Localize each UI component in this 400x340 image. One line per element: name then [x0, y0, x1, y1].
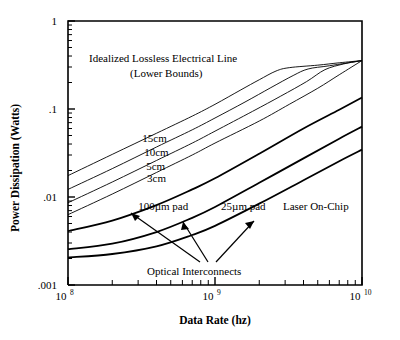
curve-label-10cm: 10cm — [144, 146, 169, 158]
curve-label-100um-pad: 100µm pad — [138, 200, 189, 212]
curve-5cm — [68, 61, 362, 203]
y-axis-tick-labels: 1.1.01.001 — [38, 15, 57, 291]
electrical-title-line1: Idealized Lossless Electrical Line — [89, 52, 237, 64]
y-tick-label: .01 — [43, 191, 57, 203]
x-axis-ticks — [68, 277, 362, 285]
data-curves — [68, 61, 362, 258]
x-tick-label: 109 — [203, 288, 222, 302]
curve-label-25um-pad: 25µm pad — [221, 200, 266, 212]
x-tick-exponent: 10 — [364, 288, 372, 297]
curve-label-15cm: 15cm — [142, 132, 167, 144]
y-tick-label: .001 — [38, 279, 57, 291]
x-tick-label: 1010 — [350, 288, 372, 302]
y-tick-label: 1 — [52, 15, 58, 27]
curve-10cm — [68, 61, 362, 190]
x-tick-exponent: 9 — [217, 288, 221, 297]
x-tick-exponent: 8 — [70, 288, 74, 297]
curve-label-laser-on-chip: Laser On-Chip — [283, 200, 349, 212]
optical-group-label: Optical Interconnects — [147, 265, 241, 277]
x-tick-mantissa: 10 — [203, 290, 215, 302]
electrical-title-line2: (Lower Bounds) — [130, 67, 203, 80]
power-dissipation-chart: 1.1.01.001 1081091010 15cm10cm5cm3cm100µ… — [0, 0, 400, 340]
x-tick-label: 108 — [56, 288, 75, 302]
y-axis-title: Power Dissipation (Watts) — [9, 104, 22, 232]
x-axis-tick-labels: 1081091010 — [56, 288, 372, 302]
x-tick-mantissa: 10 — [56, 290, 68, 302]
y-axis-ticks — [68, 21, 75, 285]
curve-label-3cm: 3cm — [147, 172, 166, 184]
curve-label-5cm: 5cm — [146, 160, 165, 172]
x-axis-title: Data Rate (hz) — [179, 314, 251, 327]
curve-25um-pad — [68, 127, 362, 250]
x-tick-mantissa: 10 — [350, 290, 362, 302]
chart-svg: 1.1.01.001 1081091010 15cm10cm5cm3cm100µ… — [0, 0, 400, 340]
y-tick-label: .1 — [49, 103, 57, 115]
optical-callout-arrows — [131, 213, 254, 262]
curve-3cm — [68, 61, 362, 215]
